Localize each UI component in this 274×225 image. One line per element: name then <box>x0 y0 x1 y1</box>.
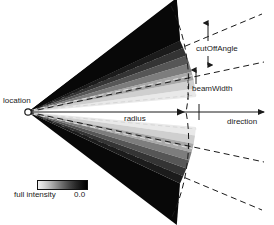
location-marker-icon <box>25 109 31 115</box>
upper-cone <box>28 0 196 112</box>
lower-cone-bands <box>28 112 196 225</box>
label-radius: radius <box>124 114 146 123</box>
label-beam-width: beamWidth <box>192 84 232 93</box>
radius-arrowhead <box>177 109 185 116</box>
intensity-legend-gradient <box>37 180 88 190</box>
upper-cone-bands <box>28 0 196 112</box>
label-location: location <box>3 96 31 105</box>
lower-cone <box>28 112 196 225</box>
label-cut-off-angle: cutOffAngle <box>196 44 238 53</box>
legend-full-intensity-label: full intensity <box>14 190 56 199</box>
diagram-canvas: location cutOffAngle beamWidth radius di… <box>0 0 274 225</box>
legend-zero-label: 0.0 <box>74 190 85 199</box>
label-direction: direction <box>227 117 257 126</box>
